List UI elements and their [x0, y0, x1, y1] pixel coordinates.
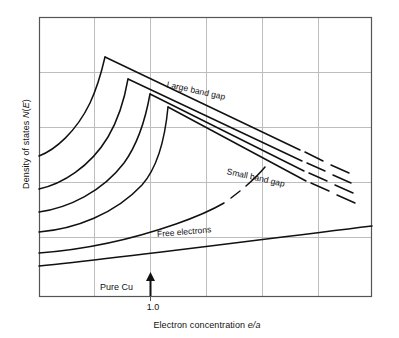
x-axis-title-prefix: Electron concentration [153, 320, 247, 330]
x-tick-label-1p0: 1.0 [133, 302, 173, 312]
chart-canvas [0, 0, 399, 338]
y-axis-title-paren-close: ) [21, 99, 31, 102]
x-axis-title-symbol: e/a [248, 320, 261, 330]
plot-background [39, 17, 372, 297]
y-axis-title-prefix: Density of states [21, 118, 31, 189]
y-axis-title-symbol: N [21, 111, 31, 118]
y-axis-title-arg: E [21, 102, 31, 108]
y-axis-title-paren-open: ( [21, 108, 31, 111]
y-axis-title: Density of states N(E) [21, 69, 31, 219]
chart-figure: Density of states N(E) Electron concentr… [0, 0, 399, 338]
pure-cu-label: Pure Cu [100, 282, 133, 292]
x-axis-title: Electron concentration e/a [122, 320, 292, 330]
